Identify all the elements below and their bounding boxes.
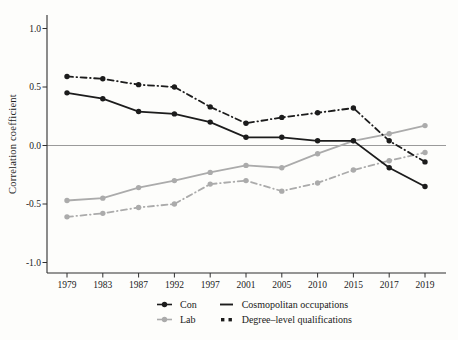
legend-measure-column: Cosmopolitan occupations Degree–level qu…: [219, 298, 352, 326]
data-point-marker: [243, 135, 248, 140]
data-point-marker: [172, 178, 177, 183]
y-axis-title: Correlation coefficient: [7, 94, 18, 194]
series-line-lab-degree: [67, 153, 425, 217]
data-point-marker: [387, 131, 392, 136]
data-point-marker: [279, 115, 284, 120]
x-tick-label: 2015: [344, 280, 363, 290]
data-point-marker: [136, 185, 141, 190]
data-point-marker: [422, 159, 427, 164]
chart-figure: 1.00.50.0-0.5-1.019791983198719921997200…: [0, 0, 458, 340]
data-point-marker: [64, 74, 69, 79]
data-point-marker: [315, 151, 320, 156]
y-tick-label: 0.5: [29, 82, 41, 92]
data-point-marker: [172, 84, 177, 89]
data-point-marker: [100, 195, 105, 200]
legend-label-degree: Degree–level qualifications: [242, 314, 352, 325]
data-point-marker: [279, 165, 284, 170]
lab-line-marker-icon: [156, 315, 173, 324]
x-tick-label: 2019: [416, 280, 435, 290]
x-tick-label: 2010: [308, 280, 327, 290]
x-tick-label: 2017: [380, 280, 399, 290]
legend: Con Lab Cosmopolitan occupa: [156, 298, 352, 326]
legend-label-lab: Lab: [180, 314, 196, 325]
data-point-marker: [422, 150, 427, 155]
legend-item-con: Con: [156, 298, 197, 311]
data-point-marker: [100, 76, 105, 81]
data-point-marker: [172, 201, 177, 206]
data-point-marker: [422, 184, 427, 189]
x-tick-label: 1997: [201, 280, 220, 290]
data-point-marker: [387, 165, 392, 170]
x-tick-label: 1983: [93, 280, 112, 290]
legend-item-degree: Degree–level qualifications: [219, 313, 352, 326]
data-point-marker: [172, 111, 177, 116]
data-point-marker: [208, 104, 213, 109]
data-point-marker: [243, 163, 248, 168]
x-tick-label: 1992: [165, 280, 184, 290]
legend-item-cosmopolitan: Cosmopolitan occupations: [219, 298, 352, 311]
data-point-marker: [422, 123, 427, 128]
data-point-marker: [100, 211, 105, 216]
y-tick-label: -1.0: [26, 258, 41, 268]
y-tick-label: 1.0: [29, 24, 41, 34]
data-point-marker: [64, 90, 69, 95]
x-tick-label: 2001: [237, 280, 256, 290]
legend-party-column: Con Lab: [156, 298, 197, 326]
data-point-marker: [315, 180, 320, 185]
data-point-marker: [243, 121, 248, 126]
data-point-marker: [136, 109, 141, 114]
data-point-marker: [279, 135, 284, 140]
data-point-marker: [387, 158, 392, 163]
data-point-marker: [208, 181, 213, 186]
data-point-marker: [351, 105, 356, 110]
y-tick-label: 0.0: [29, 141, 41, 151]
data-point-marker: [243, 178, 248, 183]
data-point-marker: [136, 82, 141, 87]
data-point-marker: [315, 138, 320, 143]
data-point-marker: [136, 205, 141, 210]
solid-line-icon: [219, 300, 235, 309]
legend-label-cosmopolitan: Cosmopolitan occupations: [242, 299, 348, 310]
x-tick-label: 2005: [272, 280, 291, 290]
x-tick-label: 1987: [129, 280, 148, 290]
data-point-marker: [315, 110, 320, 115]
data-point-marker: [387, 138, 392, 143]
line-chart-plot-area: 1.00.50.0-0.5-1.019791983198719921997200…: [0, 0, 458, 340]
legend-label-con: Con: [180, 299, 197, 310]
con-line-marker-icon: [156, 300, 173, 309]
data-point-marker: [64, 214, 69, 219]
data-point-marker: [351, 167, 356, 172]
legend-item-lab: Lab: [156, 313, 197, 326]
y-tick-label: -0.5: [26, 199, 41, 209]
x-tick-label: 1979: [58, 280, 77, 290]
data-point-marker: [208, 170, 213, 175]
data-point-marker: [351, 138, 356, 143]
data-point-marker: [100, 96, 105, 101]
dotted-line-icon: [219, 315, 235, 324]
series-line-con-degree: [67, 76, 425, 161]
data-point-marker: [64, 198, 69, 203]
data-point-marker: [279, 188, 284, 193]
data-point-marker: [208, 119, 213, 124]
